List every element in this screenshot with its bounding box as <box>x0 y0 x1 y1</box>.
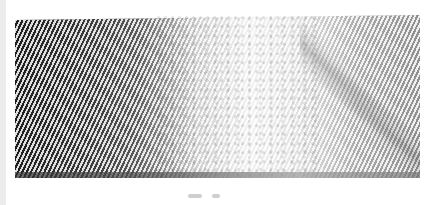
scan-left-margin <box>0 0 6 205</box>
faint-smudge-mark <box>188 194 202 198</box>
crossing-diagonal-band <box>300 15 420 178</box>
texture-bottom-edge <box>15 172 420 178</box>
faint-smudge-mark <box>212 194 220 198</box>
